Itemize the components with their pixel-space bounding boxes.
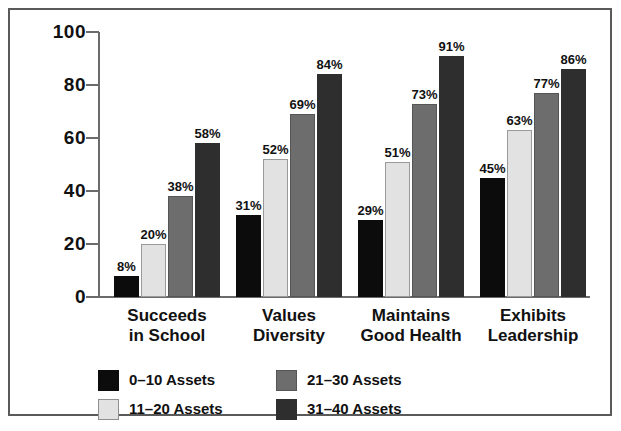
bar-group: 45%63%77%86% — [480, 32, 586, 297]
y-axis-tick-mark — [86, 137, 99, 139]
y-axis-tick-label: 0 — [16, 287, 86, 306]
chart-frame: 020406080100 8%20%38%58%31%52%69%84%29%5… — [8, 8, 612, 416]
bar[interactable] — [385, 162, 410, 297]
x-axis-category-label: Exhibits Leadership — [458, 306, 608, 346]
bar-value-label: 58% — [186, 127, 229, 140]
bar-value-label: 91% — [430, 40, 473, 53]
y-axis-tick-mark — [86, 190, 99, 192]
legend-swatch-icon — [276, 370, 297, 391]
bar[interactable] — [195, 143, 220, 297]
bar-group: 8%20%38%58% — [114, 32, 220, 297]
bar[interactable] — [534, 93, 559, 297]
bar[interactable] — [480, 178, 505, 297]
bar-value-label: 86% — [552, 53, 595, 66]
bar[interactable] — [439, 56, 464, 297]
bar-group: 29%51%73%91% — [358, 32, 464, 297]
bar[interactable] — [114, 276, 139, 297]
y-axis-tick-label: 100 — [16, 22, 86, 41]
bar[interactable] — [168, 196, 193, 297]
bar-group: 31%52%69%84% — [236, 32, 342, 297]
legend-label: 21–30 Assets — [307, 371, 402, 389]
y-axis: 020406080100 — [10, 10, 86, 310]
chart-screenshot: 020406080100 8%20%38%58%31%52%69%84%29%5… — [0, 0, 621, 431]
bar[interactable] — [141, 244, 166, 297]
legend-label: 11–20 Assets — [129, 400, 223, 418]
y-axis-tick-mark — [86, 84, 99, 86]
bar[interactable] — [412, 104, 437, 297]
legend-label: 31–40 Assets — [307, 400, 402, 418]
bar[interactable] — [507, 130, 532, 297]
bar[interactable] — [317, 74, 342, 297]
bar[interactable] — [236, 215, 261, 297]
bar[interactable] — [358, 220, 383, 297]
y-axis-tick-label: 80 — [16, 75, 86, 94]
bar[interactable] — [263, 159, 288, 297]
bar[interactable] — [561, 69, 586, 297]
bar-value-label: 84% — [308, 58, 351, 71]
y-axis-tick-label: 40 — [16, 181, 86, 200]
y-axis-tick-mark — [86, 296, 99, 298]
y-axis-tick-label: 20 — [16, 234, 86, 253]
y-axis-tick-mark — [86, 31, 99, 33]
legend-label: 0–10 Assets — [129, 371, 215, 389]
y-axis-tick-label: 60 — [16, 128, 86, 147]
legend-swatch-icon — [276, 399, 297, 420]
legend-swatch-icon — [98, 399, 119, 420]
bar[interactable] — [290, 114, 315, 297]
plot-area: 8%20%38%58%31%52%69%84%29%51%73%91%45%63… — [98, 32, 590, 297]
y-axis-tick-mark — [86, 243, 99, 245]
legend-swatch-icon — [98, 370, 119, 391]
